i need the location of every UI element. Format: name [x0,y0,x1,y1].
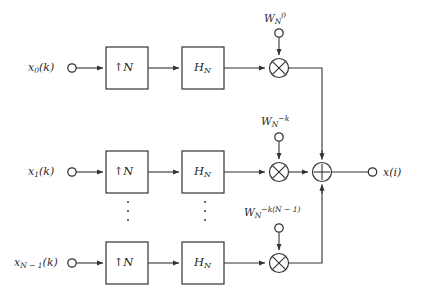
wire-modulator-n-1-to-adder [289,189,323,263]
upsampler-label-branch-1: ↑N [114,166,133,178]
twiddle-label-branch-n-1: WN−k(N − 1) [244,206,300,220]
input-label-branch-1: x1(k) [28,166,54,179]
filter-label-branch-1: HN [194,166,211,179]
up-arrow-icon: ↑ [114,165,123,178]
ellipsis-dot [204,201,206,203]
ellipsis-dot [204,219,206,221]
output-label: x(i) [383,166,401,179]
ellipsis-dot [127,219,129,221]
up-arrow-icon: ↑ [114,256,123,269]
diagram-canvas [0,0,424,295]
ellipsis-dot [127,201,129,203]
twiddle-label-branch-1: WN−k [261,115,289,129]
ellipsis-dot [127,210,129,212]
twiddle-label-branch-0: WN0 [264,12,286,26]
output-terminal [368,168,376,176]
up-arrow-icon: ↑ [114,61,123,74]
upsampler-label-branch-n-1: ↑N [114,257,133,269]
filter-label-branch-0: HN [194,62,211,75]
wire-modulator-0-to-adder [289,68,323,155]
filter-label-branch-n-1: HN [194,257,211,270]
twiddle-terminal-branch-n-1 [275,224,283,232]
input-label-branch-0: x0(k) [28,62,54,75]
twiddle-terminal-branch-1 [275,133,283,141]
upsampler-label-branch-0: ↑N [114,62,133,74]
input-label-branch-n-1: xN − 1(k) [14,257,58,270]
ellipsis-dot [204,210,206,212]
twiddle-terminal-branch-0 [275,29,283,37]
input-terminal-branch-0 [68,64,76,72]
input-terminal-branch-n-1 [68,259,76,267]
input-terminal-branch-1 [68,168,76,176]
ellipsis-filter-column [203,201,206,221]
ellipsis-upsampler-column [126,201,129,221]
block-diagram-figure: x0(k) ↑N HN WN0 x1(k) ↑N HN WN−k xN − 1(… [0,0,424,295]
